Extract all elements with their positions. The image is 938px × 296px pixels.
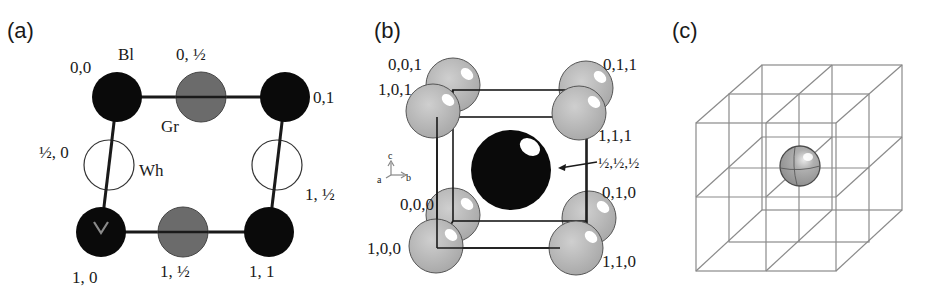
panel-a: (a) 0,0 Bl [7,18,335,287]
label-1-0-0: 1,0,0 [367,239,401,258]
label-1-0: 1, 0 [72,268,98,287]
axis-a-label: a [377,174,382,185]
center-sphere [780,146,820,186]
species-label-bl: Bl [118,45,134,64]
label-0-1-0: 0,1,0 [602,183,636,202]
figure: (a) 0,0 Bl [0,0,938,296]
label-0-0-0: 0,0,0 [400,195,434,214]
panel-b: (b) [367,18,639,275]
axes-icon [386,161,406,178]
label-1-half-right: 1, ½ [305,185,335,204]
label-1-1-1: 1,1,1 [598,126,632,145]
panel-a-label: (a) [7,18,34,43]
panel-b-label: (b) [374,18,401,43]
panel-c: (c) [672,18,902,271]
black-atom-bottom-right [244,207,294,257]
label-1-1-0: 1,1,0 [602,252,636,271]
center-atom [471,130,551,210]
axis-c-label: c [388,150,393,161]
label-0-1: 0,1 [313,88,334,107]
label-0-0: 0,0 [70,58,91,77]
label-1-0-1: 1,0,1 [378,80,412,99]
species-label-gr: Gr [161,117,179,136]
label-half-0: ½, 0 [39,143,69,162]
species-label-wh: Wh [139,161,164,180]
label-0-half: 0, ½ [176,45,206,64]
label-1-half-bottom: 1, ½ [160,262,190,281]
label-1-1: 1, 1 [249,262,275,281]
panel-c-label: (c) [672,18,698,43]
axis-b-label: b [406,172,411,183]
label-half-half-half: ½,½,½ [598,155,639,171]
black-atom-top-left [92,72,142,122]
black-atom-top-right [260,72,310,122]
label-0-0-1: 0,0,1 [388,55,422,74]
label-0-1-1: 0,1,1 [603,55,637,74]
